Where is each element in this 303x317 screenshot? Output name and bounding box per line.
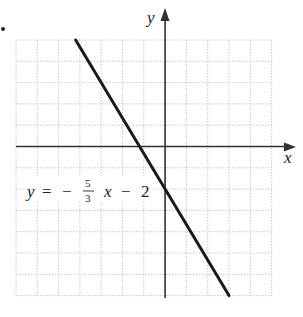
eq-x: x	[103, 182, 112, 201]
axes	[16, 8, 296, 298]
eq-constant: 2	[141, 182, 150, 201]
y-axis-arrow-icon	[161, 8, 170, 21]
y-axis-label: y	[145, 8, 155, 27]
equation-label: y = − 5 3 x − 2	[24, 176, 152, 204]
item-bullet	[1, 27, 5, 31]
x-axis-label: x	[283, 148, 292, 167]
eq-equals: =	[42, 182, 52, 201]
line-graph: x y y = − 5 3 x − 2	[0, 0, 303, 317]
eq-numerator: 5	[85, 177, 91, 189]
grid	[16, 40, 272, 296]
eq-minus-2: −	[121, 182, 131, 201]
eq-minus: −	[62, 182, 72, 201]
eq-y: y	[25, 182, 35, 201]
eq-denominator: 3	[85, 192, 91, 204]
